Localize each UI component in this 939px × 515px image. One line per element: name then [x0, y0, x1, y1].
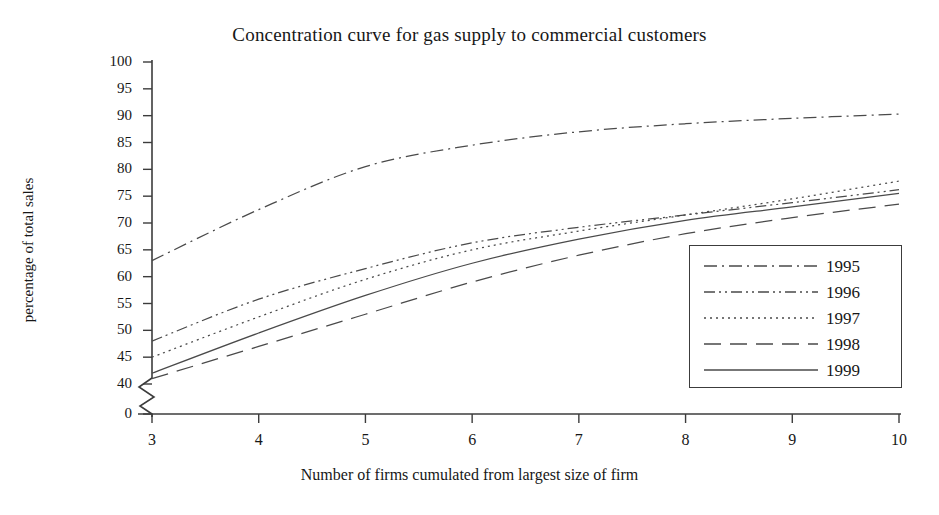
x-tick-label: 8	[666, 432, 706, 448]
legend-label: 1995	[826, 258, 860, 275]
x-tick-label: 3	[132, 432, 172, 448]
y-tick-label: 95	[90, 81, 132, 96]
legend-line-sample-1996	[702, 285, 820, 299]
x-tick-label: 4	[239, 432, 279, 448]
y-tick-label: 70	[90, 215, 132, 230]
legend-item-1998[interactable]: 1998	[690, 330, 903, 358]
x-tick-label: 9	[772, 432, 812, 448]
x-tick-label: 7	[559, 432, 599, 448]
legend-line-sample-1995	[702, 259, 820, 273]
legend-item-1996[interactable]: 1996	[690, 278, 903, 306]
legend-line-sample-1998	[702, 337, 820, 351]
legend-label: 1998	[826, 336, 860, 353]
y-tick-label: 60	[90, 269, 132, 284]
legend-item-1997[interactable]: 1997	[690, 304, 903, 332]
y-tick-label: 65	[90, 242, 132, 257]
legend-label: 1997	[826, 310, 860, 327]
legend-line-sample-1999	[702, 363, 820, 377]
y-tick-label: 55	[90, 296, 132, 311]
legend-item-1995[interactable]: 1995	[690, 252, 903, 280]
y-tick-label: 100	[90, 54, 132, 69]
y-tick-label: 0	[90, 406, 132, 421]
series-line-1995	[152, 114, 899, 261]
legend-label: 1996	[826, 284, 860, 301]
x-tick-label: 6	[452, 432, 492, 448]
legend-label: 1999	[826, 362, 860, 379]
y-tick-label: 40	[90, 376, 132, 391]
y-tick-label: 80	[90, 161, 132, 176]
y-tick-label: 90	[90, 108, 132, 123]
legend-item-1999[interactable]: 1999	[690, 356, 903, 384]
y-tick-label: 75	[90, 188, 132, 203]
chart-figure: Concentration curve for gas supply to co…	[0, 0, 939, 515]
y-tick-label: 45	[90, 349, 132, 364]
legend-line-sample-1997	[702, 311, 820, 325]
y-tick-label: 85	[90, 135, 132, 150]
x-tick-label: 5	[345, 432, 385, 448]
legend[interactable]: 19951996199719981999	[689, 245, 902, 388]
x-tick-label: 10	[879, 432, 919, 448]
y-tick-label: 50	[90, 322, 132, 337]
